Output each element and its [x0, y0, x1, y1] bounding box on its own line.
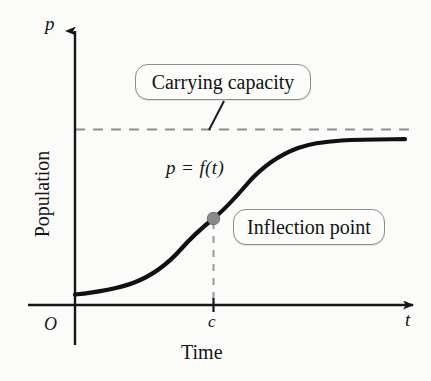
carrying-capacity-leader-line — [209, 101, 224, 130]
x-axis-variable-label: t — [405, 310, 410, 329]
carrying-capacity-callout: Carrying capacity — [135, 64, 311, 100]
curve-equation-label: p = f(t) — [166, 158, 224, 177]
inflection-point-callout-label: Inflection point — [247, 216, 371, 239]
inflection-point-callout: Inflection point — [233, 209, 385, 245]
y-axis-variable-label: p — [45, 14, 55, 33]
origin-label: O — [44, 315, 57, 333]
logistic-growth-figure: p t O c Time Population p = f(t) Carryin… — [0, 0, 431, 381]
x-axis-tick-label-c: c — [208, 313, 216, 330]
y-axis-title: Population — [32, 134, 52, 254]
inflection-point-marker — [207, 212, 219, 224]
carrying-capacity-callout-label: Carrying capacity — [152, 71, 295, 94]
x-axis-title: Time — [181, 342, 223, 362]
